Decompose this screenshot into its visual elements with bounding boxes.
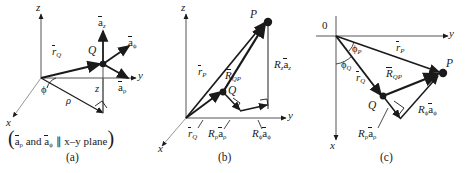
panel-c: 0 y x P Q ϕP ϕQ rP rQ RQP Rϕaϕ Rρaρ (c) bbox=[308, 0, 474, 173]
r-q-vector-a bbox=[41, 64, 100, 78]
phi-arc-a bbox=[47, 78, 56, 88]
x-axis-line-b bbox=[162, 118, 186, 146]
r-p-vector-c bbox=[336, 36, 439, 72]
r-p-vector-b bbox=[186, 23, 264, 118]
x-axis-line-a bbox=[13, 78, 41, 117]
point-q-marker-a bbox=[100, 61, 107, 68]
a-rho-unit-vector-a bbox=[103, 64, 128, 78]
right-angle-marker-c bbox=[394, 101, 404, 117]
leader-rphi-b bbox=[258, 120, 262, 129]
leader-rq-b bbox=[198, 120, 203, 128]
point-q-marker-c bbox=[380, 93, 387, 100]
rrho-arho-component-c bbox=[383, 96, 400, 118]
rphi-aphi-component-b bbox=[240, 105, 267, 111]
panel-b-graphics bbox=[158, 0, 308, 173]
point-q-marker-b bbox=[220, 89, 227, 96]
phi-p-arc-c bbox=[349, 42, 354, 51]
panel-c-graphics bbox=[308, 0, 474, 173]
phi-q-arc-c bbox=[336, 56, 352, 64]
rho-segment-a bbox=[41, 78, 103, 113]
leader-rrho-c bbox=[378, 108, 388, 128]
panel-a-graphics bbox=[0, 0, 158, 173]
point-p-marker-c bbox=[439, 69, 447, 77]
point-p-marker-b bbox=[264, 18, 272, 26]
r-qp-vector-b bbox=[223, 24, 265, 92]
a-phi-unit-vector-a bbox=[103, 46, 129, 64]
r-q-vector-c bbox=[336, 36, 381, 95]
leader-rrho-b bbox=[224, 120, 230, 129]
panel-a: z y x Q rQ az aϕ aρ ϕ ρ z (aρ and aϕ ∥ x… bbox=[0, 0, 158, 173]
right-angle-marker-a bbox=[95, 101, 107, 108]
cylindrical-coordinates-figure: z y x Q rQ az aϕ aρ ϕ ρ z (aρ and aϕ ∥ x… bbox=[0, 0, 474, 173]
panel-b: z y x P Q rP RQP Rzaz rQ Rρaρ Rϕaϕ (b) bbox=[158, 0, 308, 173]
